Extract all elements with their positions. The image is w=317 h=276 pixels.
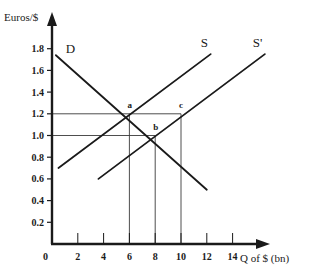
y-tick-label: 0.4 <box>32 195 45 206</box>
x-tick-label: 12 <box>202 251 212 262</box>
origin-label: 0 <box>43 251 48 262</box>
axes <box>47 12 270 249</box>
y-tick-label: 1.8 <box>32 43 45 54</box>
y-tick-label: 0.2 <box>32 217 45 228</box>
curves <box>56 54 265 190</box>
curve-label-s: S <box>201 35 208 50</box>
y-axis-arrow-icon <box>47 12 57 26</box>
y-tick-label: 0.8 <box>32 152 45 163</box>
curve-label-s-prime: S' <box>253 35 263 50</box>
curve-label-d: D <box>66 41 75 56</box>
x-tick-label: 14 <box>228 251 238 262</box>
y-tick-label: 1.0 <box>32 130 45 141</box>
point-label-c: c <box>179 100 183 110</box>
y-tick-label: 0.6 <box>32 173 45 184</box>
y-tick-label: 1.4 <box>32 87 45 98</box>
curve-d <box>56 55 207 190</box>
x-tick-label: 8 <box>153 251 158 262</box>
x-axis-title: Q of $ (bn) <box>240 252 290 265</box>
x-tick-label: 6 <box>127 251 132 262</box>
x-tick-label: 4 <box>101 251 106 262</box>
point-label-b: b <box>153 122 158 132</box>
point-label-a: a <box>127 100 132 110</box>
y-axis-title: Euros/$ <box>4 11 39 23</box>
guide-lines <box>52 114 181 244</box>
y-tick-label: 1.2 <box>32 108 45 119</box>
chart-canvas: 0.20.40.60.81.01.21.41.61.82468101214 Eu… <box>0 0 317 276</box>
x-axis-arrow-icon <box>256 239 270 249</box>
supply-demand-chart: 0.20.40.60.81.01.21.41.61.82468101214 Eu… <box>0 0 317 276</box>
y-tick-label: 1.6 <box>32 65 45 76</box>
labels: Euros/$ Q of $ (bn) 0 DSS'abc <box>4 11 290 265</box>
x-tick-label: 2 <box>75 251 80 262</box>
x-tick-label: 10 <box>176 251 186 262</box>
